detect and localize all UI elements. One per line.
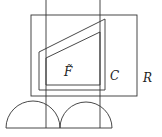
region-diagram: F̃ C R <box>0 0 162 137</box>
semicircle-left <box>6 101 60 128</box>
rectangle-r <box>31 15 137 96</box>
polygon-f <box>46 32 100 85</box>
label-f-tilde: F̃ <box>63 64 73 79</box>
label-r: R <box>142 71 152 85</box>
semicircle-right <box>60 102 112 128</box>
polygon-c <box>39 19 105 90</box>
label-c: C <box>110 69 119 83</box>
